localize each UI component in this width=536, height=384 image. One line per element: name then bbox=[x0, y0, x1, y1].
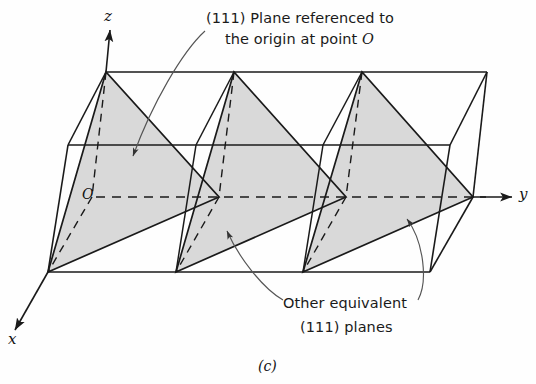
x-axis-label: x bbox=[8, 330, 16, 348]
y-axis-label: y bbox=[519, 185, 527, 203]
annotation-top-line2: the origin at point O bbox=[225, 31, 374, 47]
x-axis-arrow bbox=[15, 272, 48, 330]
annotation-bottom-line2: (111) planes bbox=[300, 319, 393, 335]
annotation-top-line2-origin: O bbox=[362, 31, 374, 47]
edge-right-receding-top bbox=[450, 72, 487, 145]
z-axis-label: z bbox=[104, 7, 112, 25]
annotation-bottom-line1: Other equivalent bbox=[283, 295, 407, 311]
annotation-top-line1: (111) Plane referenced to bbox=[206, 10, 406, 26]
origin-label: O bbox=[82, 186, 93, 202]
figure-container: (111) Plane referenced to the origin at … bbox=[0, 0, 536, 384]
annotation-top-line2-text: the origin at point bbox=[225, 31, 362, 47]
leader-line-bottom-right bbox=[407, 219, 423, 300]
diagram-svg bbox=[0, 0, 536, 384]
figure-caption: (c) bbox=[258, 358, 277, 374]
z-axis-arrow bbox=[106, 30, 110, 72]
edge-right-back-vertical bbox=[473, 72, 487, 197]
